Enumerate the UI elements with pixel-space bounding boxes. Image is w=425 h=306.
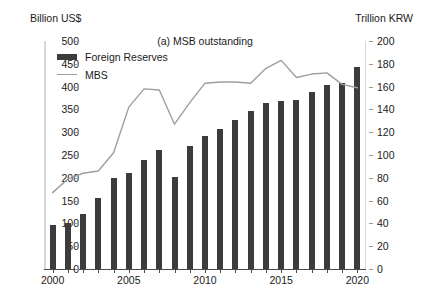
x-axis-tick-mark	[312, 269, 313, 273]
x-axis-tick-mark	[251, 269, 252, 273]
right-axis-tick-label: 140	[377, 104, 395, 115]
x-axis-tick-label: 2010	[193, 275, 216, 286]
right-axis-tick-mark	[369, 87, 373, 88]
right-axis-tick-mark	[369, 64, 373, 65]
x-axis-tick-mark	[144, 269, 145, 273]
right-axis-tick-mark	[369, 269, 373, 270]
legend-item-mbs: MBS	[57, 67, 168, 82]
x-axis-tick-mark	[235, 269, 236, 273]
right-axis-tick-label: 120	[377, 127, 395, 138]
chart-container: Billion US$ Trillion KRW (a) MSB outstan…	[0, 0, 425, 306]
right-axis-tick-mark	[369, 109, 373, 110]
x-axis-tick-mark	[53, 269, 54, 273]
right-axis-tick-mark	[369, 132, 373, 133]
x-axis-tick-mark	[129, 269, 130, 273]
x-axis-tick-mark	[190, 269, 191, 273]
x-axis-tick-mark	[220, 269, 221, 273]
plot-area: (a) MSB outstanding 05010015020025030035…	[45, 41, 365, 269]
x-axis-tick-label: 2000	[41, 275, 64, 286]
right-axis-tick-mark	[369, 223, 373, 224]
x-axis: 20002005201020152020	[45, 269, 365, 299]
x-axis-tick-mark	[83, 269, 84, 273]
x-axis-tick-mark	[159, 269, 160, 273]
right-axis-tick-mark	[369, 41, 373, 42]
x-axis-tick-mark	[175, 269, 176, 273]
x-axis-tick-mark	[342, 269, 343, 273]
right-axis-tick-label: 20	[377, 241, 389, 252]
legend-item-foreign-reserves: Foreign Reserves	[57, 49, 168, 64]
x-axis-tick-label: 2005	[117, 275, 140, 286]
right-axis-tick-label: 0	[377, 264, 383, 275]
x-axis-tick-mark	[98, 269, 99, 273]
x-axis-tick-mark	[357, 269, 358, 273]
right-axis-tick-label: 60	[377, 195, 389, 206]
x-axis-tick-mark	[114, 269, 115, 273]
chart-legend: Foreign Reserves MBS	[57, 49, 168, 85]
right-axis-tick-mark	[369, 201, 373, 202]
x-axis-tick-mark	[327, 269, 328, 273]
right-axis-tick-mark	[369, 178, 373, 179]
line-swatch-icon	[57, 74, 77, 75]
right-axis-tick-label: 160	[377, 81, 395, 92]
right-axis-unit-label: Trillion KRW	[355, 12, 413, 24]
x-axis-tick-label: 2015	[270, 275, 293, 286]
x-axis-tick-mark	[68, 269, 69, 273]
x-axis-tick-mark	[281, 269, 282, 273]
x-axis-tick-mark	[296, 269, 297, 273]
right-axis-tick-label: 200	[377, 36, 395, 47]
right-axis-tick-mark	[369, 155, 373, 156]
right-axis-tick-label: 180	[377, 59, 395, 70]
right-axis-ticks: 020406080100120140160180200	[369, 41, 405, 269]
x-axis-tick-mark	[266, 269, 267, 273]
legend-label-mbs: MBS	[85, 69, 108, 81]
x-axis-tick-mark	[205, 269, 206, 273]
left-axis-unit-label: Billion US$	[30, 12, 81, 24]
right-axis-tick-label: 40	[377, 218, 389, 229]
x-axis-tick-label: 2020	[346, 275, 369, 286]
right-axis-tick-label: 80	[377, 173, 389, 184]
legend-label-foreign-reserves: Foreign Reserves	[85, 51, 168, 63]
right-axis-tick-label: 100	[377, 150, 395, 161]
right-axis-tick-mark	[369, 246, 373, 247]
bar-swatch-icon	[57, 54, 77, 60]
